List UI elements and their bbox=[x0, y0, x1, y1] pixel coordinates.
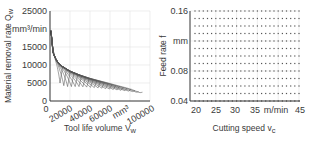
grid-point bbox=[261, 85, 262, 86]
right-y-ticks: 0.04 0.08 mm 0.16 bbox=[170, 6, 188, 106]
grid-point bbox=[203, 93, 204, 94]
grid-point bbox=[240, 63, 241, 64]
grid-point bbox=[257, 70, 258, 71]
grid-point bbox=[294, 78, 295, 79]
grid-point bbox=[236, 63, 237, 64]
grid-point bbox=[232, 78, 233, 79]
grid-point bbox=[286, 70, 287, 71]
grid-point bbox=[261, 48, 262, 49]
grid-point bbox=[215, 48, 216, 49]
grid-point bbox=[282, 10, 283, 11]
grid-point bbox=[232, 10, 233, 11]
grid-point bbox=[286, 40, 287, 41]
grid-point bbox=[273, 25, 274, 26]
grid-point bbox=[253, 70, 254, 71]
grid-point bbox=[194, 93, 195, 94]
grid-point bbox=[269, 48, 270, 49]
grid-point bbox=[265, 18, 266, 19]
grid-point bbox=[294, 10, 295, 11]
grid-point bbox=[224, 18, 225, 19]
grid-point bbox=[282, 70, 283, 71]
grid-point bbox=[219, 85, 220, 86]
grid-point bbox=[211, 40, 212, 41]
grid-point bbox=[261, 40, 262, 41]
grid-point bbox=[236, 93, 237, 94]
grid-point bbox=[228, 55, 229, 56]
grid-point bbox=[261, 33, 262, 34]
grid-point bbox=[273, 33, 274, 34]
grid-point bbox=[290, 25, 291, 26]
grid-point bbox=[207, 18, 208, 19]
grid-point bbox=[286, 10, 287, 11]
grid-point bbox=[215, 93, 216, 94]
grid-point bbox=[194, 33, 195, 34]
grid-point bbox=[294, 33, 295, 34]
grid-point bbox=[290, 10, 291, 11]
grid-point bbox=[278, 55, 279, 56]
grid-point bbox=[253, 48, 254, 49]
grid-point bbox=[207, 25, 208, 26]
grid-point bbox=[228, 70, 229, 71]
grid-point bbox=[294, 40, 295, 41]
grid-point bbox=[199, 63, 200, 64]
grid-point bbox=[253, 40, 254, 41]
grid-point bbox=[253, 25, 254, 26]
grid-point bbox=[298, 18, 299, 19]
grid-point bbox=[211, 25, 212, 26]
grid-point bbox=[294, 25, 295, 26]
left-curve-family bbox=[51, 31, 143, 93]
grid-point bbox=[253, 33, 254, 34]
grid-point bbox=[240, 55, 241, 56]
right-x-unit: m/min bbox=[264, 105, 289, 115]
grid-point bbox=[228, 33, 229, 34]
grid-point bbox=[199, 18, 200, 19]
grid-point bbox=[286, 63, 287, 64]
grid-point bbox=[199, 93, 200, 94]
grid-point bbox=[203, 18, 204, 19]
grid-point bbox=[224, 48, 225, 49]
grid-point bbox=[244, 70, 245, 71]
grid-point bbox=[282, 55, 283, 56]
grid-point bbox=[286, 33, 287, 34]
grid-point bbox=[269, 55, 270, 56]
grid-point bbox=[265, 25, 266, 26]
grid-point bbox=[228, 40, 229, 41]
grid-point bbox=[211, 93, 212, 94]
grid-point bbox=[278, 93, 279, 94]
grid-point bbox=[257, 40, 258, 41]
grid-point bbox=[219, 10, 220, 11]
grid-point bbox=[224, 85, 225, 86]
grid-point bbox=[219, 70, 220, 71]
grid-point bbox=[240, 18, 241, 19]
grid-point bbox=[219, 33, 220, 34]
grid-point bbox=[232, 55, 233, 56]
grid-point bbox=[203, 48, 204, 49]
grid-point bbox=[294, 18, 295, 19]
grid-point bbox=[194, 70, 195, 71]
grid-point bbox=[265, 55, 266, 56]
right-x-axis-label: Cutting speed vc bbox=[213, 123, 276, 135]
grid-point bbox=[194, 18, 195, 19]
grid-point bbox=[257, 25, 258, 26]
grid-point bbox=[257, 78, 258, 79]
grid-point bbox=[265, 10, 266, 11]
grid-point bbox=[269, 78, 270, 79]
right-x-tick: 30 bbox=[230, 105, 240, 115]
grid-point bbox=[261, 78, 262, 79]
grid-point bbox=[278, 63, 279, 64]
right-x-tick: 20 bbox=[191, 105, 201, 115]
grid-point bbox=[240, 48, 241, 49]
grid-point bbox=[236, 85, 237, 86]
grid-point bbox=[228, 78, 229, 79]
grid-point bbox=[207, 33, 208, 34]
grid-point bbox=[244, 93, 245, 94]
grid-point bbox=[249, 10, 250, 11]
grid-point bbox=[236, 55, 237, 56]
grid-point bbox=[290, 55, 291, 56]
grid-point bbox=[224, 40, 225, 41]
grid-point bbox=[282, 63, 283, 64]
grid-point bbox=[199, 25, 200, 26]
grid-point bbox=[278, 10, 279, 11]
grid-point bbox=[286, 85, 287, 86]
grid-point bbox=[236, 25, 237, 26]
